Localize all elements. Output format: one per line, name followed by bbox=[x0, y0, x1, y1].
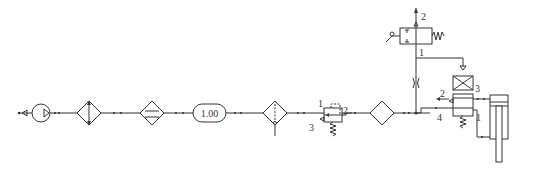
exhaust-triangle-icon bbox=[320, 117, 324, 121]
pedal-outlet-arrow-icon bbox=[414, 8, 418, 13]
dryer-diamond-icon bbox=[140, 101, 164, 125]
lubricator-diamond-icon bbox=[370, 101, 394, 125]
pilot-line bbox=[416, 58, 463, 66]
cylinder-rod bbox=[496, 106, 502, 162]
pedal-icon bbox=[386, 36, 400, 42]
air-receiver: 1.00 bbox=[193, 104, 226, 122]
main-valve: 2 3 4 1 bbox=[437, 76, 481, 128]
pilot-triangle-icon bbox=[460, 66, 466, 70]
diagram-canvas: 1.00 1 2 3 bbox=[0, 0, 546, 176]
valve-port-4: 4 bbox=[437, 112, 442, 123]
regulator-port-2: 2 bbox=[343, 105, 348, 116]
receiver-value: 1.00 bbox=[201, 108, 219, 119]
regulator-spring-icon bbox=[330, 122, 336, 136]
valve-port-3: 3 bbox=[475, 83, 480, 94]
pedal-valve-spring-icon bbox=[432, 32, 444, 40]
pedal-port-1: 1 bbox=[419, 47, 424, 58]
air-dryer bbox=[140, 101, 164, 125]
filter-with-drain bbox=[263, 101, 287, 136]
pedal-port-2: 2 bbox=[421, 11, 426, 22]
pneumatic-circuit-diagram: 1.00 1 2 3 bbox=[0, 0, 546, 176]
lubricator bbox=[370, 101, 394, 125]
main-valve-spring-icon bbox=[460, 116, 466, 128]
main-valve-body bbox=[453, 94, 473, 116]
pedal-valve: 2 1 bbox=[386, 8, 444, 58]
valve-port-2: 2 bbox=[440, 88, 445, 99]
pressure-regulator: 1 2 3 bbox=[309, 98, 352, 136]
main-valve-exhaust-icon bbox=[449, 99, 453, 103]
valve-supply-line bbox=[416, 108, 453, 113]
regulator-port-3: 3 bbox=[309, 122, 314, 133]
compressor bbox=[32, 104, 50, 122]
aftercooler bbox=[77, 101, 101, 125]
regulator-port-1: 1 bbox=[318, 98, 323, 109]
double-acting-cylinder bbox=[490, 95, 508, 162]
